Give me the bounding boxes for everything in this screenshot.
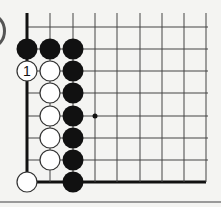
bottom-separator — [0, 201, 221, 203]
star-point-dot — [93, 114, 98, 119]
black-stone — [63, 39, 84, 60]
white-stone — [40, 106, 60, 126]
markers — [93, 114, 98, 119]
white-stone — [17, 172, 37, 192]
white-stone — [40, 128, 60, 148]
white-stone: 1 — [17, 61, 37, 81]
black-stone — [63, 172, 84, 193]
black-stone — [63, 150, 84, 171]
black-stone — [63, 83, 84, 104]
white-stone — [40, 83, 60, 103]
black-stone — [63, 61, 84, 82]
go-board: 1 — [0, 0, 221, 207]
move-number-label: 1 — [23, 63, 31, 79]
white-stone — [40, 150, 60, 170]
black-stone — [17, 39, 38, 60]
black-stone — [40, 39, 61, 60]
black-stone — [63, 106, 84, 127]
black-stone — [63, 128, 84, 149]
white-stone — [40, 61, 60, 81]
